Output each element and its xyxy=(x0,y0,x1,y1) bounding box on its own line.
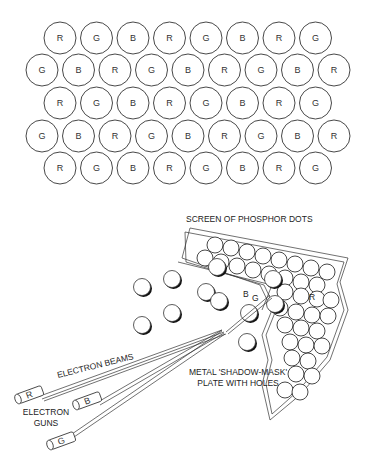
phosphor-dot-letter: G xyxy=(202,33,209,43)
label-electron-guns-line2: GUNS xyxy=(34,418,59,428)
label-electron-guns-line1: ELECTRON xyxy=(23,407,69,417)
phosphor-dot-letter: G xyxy=(312,98,319,108)
phosphor-dot-letter: R xyxy=(331,131,338,141)
crt-shadow-mask-diagram: RGBRGBRGGBRGBRGBRRGBRGBRGGBRGBRGBRRGBRGB… xyxy=(0,0,368,468)
phosphor-dot-letter: G xyxy=(93,33,100,43)
screen-phosphor-dot xyxy=(245,262,261,278)
mask-hole xyxy=(209,259,226,276)
phosphor-dot-letter: R xyxy=(221,65,228,75)
phosphor-dot-letter: G xyxy=(148,131,155,141)
screen-phosphor-dot xyxy=(303,260,319,276)
mask-hole xyxy=(134,279,151,296)
phosphor-dot-letter: R xyxy=(57,98,64,108)
screen-phosphor-dot xyxy=(287,256,303,272)
phosphor-dot-letter: R xyxy=(276,98,283,108)
phosphor-dot-grid: RGBRGBRGGBRGBRGBRRGBRGBRGGBRGBRGBRRGBRGB… xyxy=(26,22,350,184)
screen-phosphor-dot xyxy=(314,338,330,354)
phosphor-dot-letter: G xyxy=(257,65,264,75)
screen-phosphor-dot xyxy=(304,307,320,323)
phosphor-dot-letter: R xyxy=(166,163,173,173)
phosphor-dot-letter: R xyxy=(331,65,338,75)
phosphor-dot-letter: G xyxy=(312,33,319,43)
mask-hole xyxy=(134,317,151,334)
electron-gun-g: G xyxy=(45,431,76,450)
phosphor-dot-letter: B xyxy=(185,65,191,75)
phosphor-dot-letter: R xyxy=(57,163,64,173)
mask-hole xyxy=(267,296,284,313)
screen-phosphor-dot xyxy=(229,258,245,274)
phosphor-dot-letter: B xyxy=(239,33,245,43)
screen-phosphor-dot xyxy=(288,366,304,382)
phosphor-dot-letter: R xyxy=(276,163,283,173)
screen-phosphor-dot xyxy=(288,304,304,320)
screen-phosphor-dot xyxy=(255,248,271,264)
screen-phosphor-dot xyxy=(293,320,309,336)
screen-phosphor-dot xyxy=(223,240,239,256)
electron-gun-r: R xyxy=(13,385,44,404)
phosphor-dot-letter: R xyxy=(221,131,228,141)
phosphor-dot-letter: B xyxy=(239,98,245,108)
phosphor-screen: G B R xyxy=(182,228,348,420)
phosphor-dot-letter: R xyxy=(276,33,283,43)
screen-phosphor-dot xyxy=(239,244,255,260)
mask-hole xyxy=(164,305,181,322)
phosphor-dot-letter: R xyxy=(166,33,173,43)
phosphor-dot-letter: G xyxy=(257,131,264,141)
screen-phosphor-dot xyxy=(319,264,335,280)
phosphor-dot-letter: B xyxy=(294,65,300,75)
phosphor-dot-letter: G xyxy=(202,98,209,108)
phosphor-dot-letter: G xyxy=(38,65,45,75)
screen-phosphor-dot xyxy=(304,368,320,384)
screen-phosphor-dot xyxy=(282,334,298,350)
screen-phosphor-dot xyxy=(323,292,339,308)
label-shadow-mask-line2: PLATE WITH HOLES xyxy=(197,378,279,388)
label-shadow-mask-line1: METAL 'SHADOW-MASK' xyxy=(189,367,287,377)
screen-phosphor-dot xyxy=(207,237,223,253)
phosphor-dot-letter: B xyxy=(75,131,81,141)
mask-hole xyxy=(164,271,181,288)
phosphor-dot-letter: R xyxy=(112,131,119,141)
phosphor-dot-letter: G xyxy=(312,163,319,173)
screen-phosphor-dot xyxy=(300,353,316,369)
phosphor-dot-letter: B xyxy=(130,33,136,43)
phosphor-dot-letter: R xyxy=(166,98,173,108)
screen-phosphor-dot xyxy=(277,317,293,333)
screen-phosphor-dot xyxy=(298,337,314,353)
screen-phosphor-dot xyxy=(292,384,308,400)
screen-dot-label-g: G xyxy=(252,293,259,303)
screen-phosphor-dot xyxy=(271,252,287,268)
screen-phosphor-dot xyxy=(293,288,309,304)
mask-hole xyxy=(239,334,256,351)
mask-hole xyxy=(265,271,282,288)
phosphor-dot-letter: B xyxy=(75,65,81,75)
phosphor-dot-letter: B xyxy=(185,131,191,141)
phosphor-dot-letter: G xyxy=(148,65,155,75)
phosphor-dot-letter: G xyxy=(38,131,45,141)
screen-phosphor-dot xyxy=(320,308,336,324)
screen-dot-label-r: R xyxy=(309,292,315,302)
phosphor-dot-letter: G xyxy=(93,163,100,173)
phosphor-dot-letter: B xyxy=(130,98,136,108)
screen-phosphor-dot xyxy=(309,323,325,339)
label-screen-of-phosphor-dots: SCREEN OF PHOSPHOR DOTS xyxy=(186,214,313,224)
screen-dot-label-b: B xyxy=(243,289,249,299)
phosphor-dot-letter: G xyxy=(93,98,100,108)
phosphor-dot-letter: R xyxy=(112,65,119,75)
electron-gun-b: B xyxy=(71,391,102,410)
mask-hole xyxy=(211,293,228,310)
screen-phosphor-dot xyxy=(277,382,293,398)
phosphor-dot-letter: R xyxy=(57,33,64,43)
phosphor-dot-letter: B xyxy=(130,163,136,173)
phosphor-dot-letter: B xyxy=(294,131,300,141)
phosphor-dot-letter: B xyxy=(239,163,245,173)
screen-phosphor-dot xyxy=(284,350,300,366)
phosphor-dot-letter: G xyxy=(202,163,209,173)
